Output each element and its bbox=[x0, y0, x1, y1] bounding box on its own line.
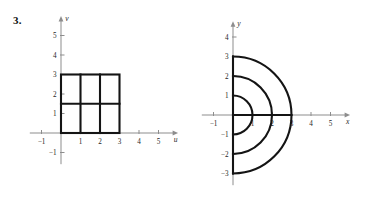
xy-semicircles-group bbox=[233, 57, 292, 174]
y-tick-label: −1 bbox=[221, 131, 229, 139]
uv-plane-canvas: −112345−112345 uv bbox=[30, 0, 195, 203]
x-tick-label: −1 bbox=[210, 120, 218, 128]
y-tick-label: 3 bbox=[53, 71, 57, 79]
x-axis-label: u bbox=[174, 135, 178, 144]
x-tick-label: 3 bbox=[118, 138, 122, 146]
figure-uv-plane: −112345−112345 uv bbox=[30, 0, 195, 203]
problem-number: 3. bbox=[13, 15, 22, 26]
xy-labels-group: xy bbox=[236, 19, 350, 126]
x-axis-label: x bbox=[345, 117, 350, 126]
y-tick-label: 2 bbox=[225, 73, 229, 81]
xy-axes-group bbox=[202, 21, 350, 185]
y-axis-label: y bbox=[236, 19, 241, 28]
x-tick-label: −1 bbox=[38, 138, 46, 146]
y-tick-label: −3 bbox=[221, 170, 229, 178]
figure-page: 3. −112345−112345 uv −112345−3−2−11234 x… bbox=[0, 0, 369, 203]
uv-labels-group: uv bbox=[65, 14, 177, 144]
y-tick-label: 4 bbox=[225, 34, 229, 42]
x-tick-label: 5 bbox=[329, 120, 333, 128]
figure-xy-plane: −112345−3−2−11234 xy bbox=[196, 0, 369, 203]
y-axis-label: v bbox=[65, 14, 69, 23]
y-tick-label: 1 bbox=[53, 110, 57, 118]
x-tick-label: 2 bbox=[98, 138, 102, 146]
y-tick-label: 4 bbox=[53, 52, 57, 60]
y-axis-arrowhead bbox=[231, 21, 236, 27]
x-tick-label: 4 bbox=[309, 120, 313, 128]
x-tick-label: 4 bbox=[137, 138, 141, 146]
y-axis-arrowhead bbox=[59, 16, 64, 22]
xy-plane-canvas: −112345−3−2−11234 xy bbox=[196, 0, 369, 203]
y-tick-label: −1 bbox=[49, 149, 57, 157]
y-tick-label: 3 bbox=[225, 53, 229, 61]
y-tick-label: −2 bbox=[221, 151, 229, 159]
uv-region-group bbox=[61, 75, 120, 134]
y-tick-label: 2 bbox=[53, 91, 57, 99]
x-tick-label: 1 bbox=[79, 138, 83, 146]
x-tick-label: 5 bbox=[157, 138, 161, 146]
y-tick-label: 1 bbox=[225, 92, 229, 100]
y-tick-label: 5 bbox=[53, 32, 57, 40]
